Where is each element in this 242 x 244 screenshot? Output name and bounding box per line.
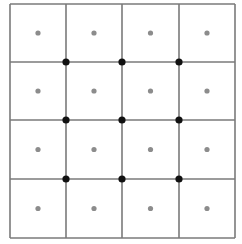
vertex-dot — [62, 175, 69, 182]
cell-dot — [35, 147, 40, 152]
cell-dot — [148, 147, 153, 152]
cell-dot — [204, 147, 209, 152]
cell-dot — [204, 88, 209, 93]
cell-dot — [91, 30, 96, 35]
cell-dot — [204, 206, 209, 211]
cell-dot — [148, 206, 153, 211]
vertex-dot — [118, 58, 125, 65]
grid-diagram — [0, 0, 242, 244]
cell-dot — [35, 206, 40, 211]
cell-dot — [91, 147, 96, 152]
cell-dot — [35, 88, 40, 93]
cell-dot — [91, 88, 96, 93]
vertex-dot — [62, 116, 69, 123]
vertex-dot — [118, 175, 125, 182]
vertex-dot — [62, 58, 69, 65]
cell-dot — [148, 88, 153, 93]
vertex-dot — [175, 116, 182, 123]
vertex-dot — [118, 116, 125, 123]
cell-dot — [35, 30, 40, 35]
cell-dot — [91, 206, 96, 211]
cell-dot — [148, 30, 153, 35]
cell-dot — [204, 30, 209, 35]
vertex-dot — [175, 58, 182, 65]
vertex-dot — [175, 175, 182, 182]
